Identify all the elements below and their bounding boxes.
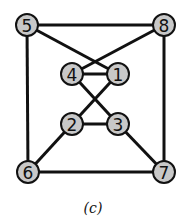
- edge-5-6: [27, 25, 28, 172]
- node-3: 3: [107, 113, 129, 135]
- node-4: 4: [61, 63, 83, 85]
- node-label: 5: [22, 16, 33, 36]
- node-1: 1: [107, 63, 129, 85]
- node-label: 3: [113, 115, 124, 135]
- node-label: 2: [67, 115, 78, 135]
- node-8: 8: [153, 14, 175, 36]
- node-label: 7: [159, 163, 170, 183]
- edges-group: [27, 25, 164, 172]
- node-5: 5: [16, 14, 38, 36]
- node-6: 6: [17, 161, 39, 183]
- figure-caption: (c): [0, 200, 186, 216]
- node-label: 4: [67, 65, 78, 85]
- node-label: 6: [23, 163, 34, 183]
- node-2: 2: [61, 113, 83, 135]
- node-label: 8: [159, 16, 170, 36]
- node-label: 1: [113, 65, 124, 85]
- graph-diagram: 58412367: [0, 0, 186, 200]
- node-7: 7: [153, 161, 175, 183]
